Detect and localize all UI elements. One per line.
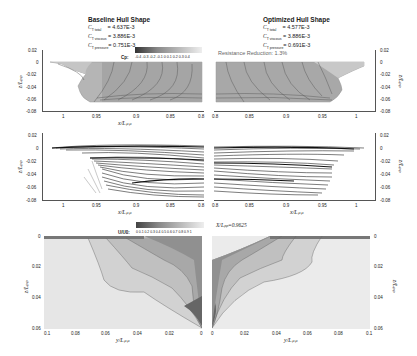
section-label: X/Lₚₚ=0.9625 xyxy=(216,222,247,229)
cp-plot-optimized xyxy=(214,50,376,112)
stream-z-tick-0.02-left: 0.02 xyxy=(28,133,37,138)
wake-z-tick-006-right: 0.06 xyxy=(374,326,383,331)
u-colorbar-label: U/U0: xyxy=(118,230,130,235)
stream-x-tick-right-085: 0.85 xyxy=(245,203,254,208)
cp-contour-optimized xyxy=(214,50,376,112)
wake-y-tick-left-002: 0.02 xyxy=(165,331,174,336)
cp-z-tick-m0.02-left: -0.02 xyxy=(26,72,36,77)
wake-contour-baseline xyxy=(44,236,202,329)
cp-x-tick-left-095: 0.95 xyxy=(92,114,101,119)
stream-x-tick-left-095: 0.95 xyxy=(92,203,101,208)
baseline-ct-total-value: = 4.637E-3 xyxy=(107,24,134,30)
cp-z-tick-m0.06-right: -0.06 xyxy=(380,97,390,102)
stream-x-tick-left-09: 0.9 xyxy=(133,203,139,208)
wake-z-tick-004-right: 0.04 xyxy=(374,295,383,300)
wake-y-tick-right-0: 0 xyxy=(211,331,214,336)
wake-z-tick-006-left: 0.06 xyxy=(32,326,41,331)
cp-zlabel-right: z/Lₚₚ xyxy=(397,75,404,88)
cp-z-tick-0.02-left: 0.02 xyxy=(28,48,37,53)
cp-zlabel-left: z/Lₚₚ xyxy=(17,75,24,88)
cp-z-tick-0-right: 0 xyxy=(380,60,383,65)
u-colorbar-ticks: 0 0.1 0.2 0.3 0.4 0.5 0.6 0.7 0.8 0.9 1 xyxy=(136,230,192,235)
cp-z-tick-0-left: 0 xyxy=(36,60,39,65)
u-colorbar: 0 0.1 0.2 0.3 0.4 0.5 0.6 0.7 0.8 0.9 1 xyxy=(136,222,204,236)
stream-xlabel-right: x/Lₚₚ xyxy=(290,209,304,216)
streamlines-optimized xyxy=(214,133,376,201)
optimized-ct-total-value: = 4.577E-3 xyxy=(282,24,309,30)
cp-x-tick-right-1: 1 xyxy=(355,114,358,119)
optimized-ct-pressure-value: = 0.691E-3 xyxy=(283,42,310,48)
stream-z-tick-m0.06-right: -0.06 xyxy=(380,185,390,190)
optimized-ct-viscous-value: = 3.886E-3 xyxy=(283,33,310,39)
cp-x-tick-left-08: 0.8 xyxy=(198,114,204,119)
wake-zlabel-left: z/Lₚₚ xyxy=(23,280,30,293)
stream-x-tick-right-09: 0.9 xyxy=(283,203,289,208)
stream-x-tick-right-095: 0.95 xyxy=(318,203,327,208)
stream-z-tick-m0.04-right: -0.04 xyxy=(380,172,390,177)
optimized-ct-total: CT total = 4.577E-3 xyxy=(263,24,330,33)
u-colorbar-gradient xyxy=(136,222,204,228)
baseline-ct-viscous: CT viscous = 3.886E-3 xyxy=(88,33,150,42)
cp-z-tick-m0.02-right: -0.02 xyxy=(380,72,390,77)
cp-z-tick-m0.06-left: -0.06 xyxy=(26,97,36,102)
cp-plot-baseline xyxy=(42,50,204,112)
optimized-header: Optimized Hull Shape CT total = 4.577E-3… xyxy=(263,16,330,51)
wake-y-tick-right-004: 0.04 xyxy=(272,331,281,336)
wake-plot-optimized xyxy=(212,236,370,329)
wake-plot-baseline xyxy=(44,236,202,329)
baseline-title: Baseline Hull Shape xyxy=(88,16,150,23)
stream-z-tick-m0.04-left: -0.04 xyxy=(26,172,36,177)
wake-y-tick-right-01: 0.1 xyxy=(366,331,372,336)
baseline-header: Baseline Hull Shape CT total = 4.637E-3 … xyxy=(88,16,150,51)
wake-z-tick-002-left: 0.02 xyxy=(32,264,41,269)
wake-contour-optimized xyxy=(212,236,370,329)
wake-ylabel-right: y/Lₚₚ xyxy=(284,337,298,344)
wake-y-tick-left-0: 0 xyxy=(200,331,203,336)
stream-zlabel-right: z/Lₚₚ xyxy=(397,160,404,173)
cp-z-tick-m0.04-left: -0.04 xyxy=(26,85,36,90)
wake-z-tick-0-right: 0 xyxy=(374,234,377,239)
wake-y-tick-left-004: 0.04 xyxy=(133,331,142,336)
cp-z-tick-0.02-right: 0.02 xyxy=(380,48,389,53)
baseline-ct-pressure-value: = 0.751E-3 xyxy=(108,42,135,48)
stream-x-tick-left-1: 1 xyxy=(62,203,65,208)
cp-x-tick-right-085: 0.85 xyxy=(245,114,254,119)
stream-x-tick-left-085: 0.85 xyxy=(166,203,175,208)
cp-x-tick-right-09: 0.9 xyxy=(283,114,289,119)
stream-z-tick-m0.02-left: -0.02 xyxy=(26,159,36,164)
wake-z-tick-004-left: 0.04 xyxy=(32,295,41,300)
streamlines-baseline xyxy=(42,133,204,201)
wake-z-tick-0-left: 0 xyxy=(38,234,41,239)
baseline-ct-viscous-value: = 3.886E-3 xyxy=(108,33,135,39)
wake-y-tick-left-006: 0.06 xyxy=(101,331,110,336)
wake-y-tick-right-006: 0.06 xyxy=(303,331,312,336)
wake-y-tick-left-008: 0.08 xyxy=(71,331,80,336)
stream-zlabel-left: z/Lₚₚ xyxy=(17,160,24,173)
stream-z-tick-0-right: 0 xyxy=(380,146,383,151)
stream-z-tick-0-left: 0 xyxy=(36,146,39,151)
wake-ylabel-left: y/Lₚₚ xyxy=(116,337,130,344)
stream-x-tick-left-08: 0.8 xyxy=(198,203,204,208)
cp-x-tick-left-1: 1 xyxy=(62,114,65,119)
wake-zlabel-right: z/Lₚₚ xyxy=(391,280,398,293)
cp-z-tick-m0.08-right: -0.08 xyxy=(380,109,390,114)
stream-z-tick-0.02-right: 0.02 xyxy=(380,133,389,138)
cp-z-tick-m0.04-right: -0.04 xyxy=(380,85,390,90)
stream-z-tick-m0.06-left: -0.06 xyxy=(26,185,36,190)
optimized-title: Optimized Hull Shape xyxy=(263,16,330,23)
cp-x-tick-right-095: 0.95 xyxy=(318,114,327,119)
wake-y-tick-left-01: 0.1 xyxy=(44,331,50,336)
baseline-ct-total: CT total = 4.637E-3 xyxy=(88,24,150,33)
cp-x-tick-left-09: 0.9 xyxy=(133,114,139,119)
cp-z-tick-m0.08-left: -0.08 xyxy=(26,109,36,114)
cp-x-tick-left-085: 0.85 xyxy=(166,114,175,119)
wake-y-tick-right-002: 0.02 xyxy=(240,331,249,336)
stream-x-tick-right-08: 0.8 xyxy=(212,203,218,208)
stream-z-tick-m0.08-right: -0.08 xyxy=(380,198,390,203)
stream-xlabel-left: x/Lₚₚ xyxy=(118,209,132,216)
cp-contour-baseline xyxy=(42,50,204,112)
stream-z-tick-m0.08-left: -0.08 xyxy=(26,198,36,203)
cp-x-tick-right-08: 0.8 xyxy=(212,114,218,119)
stream-x-tick-right-1: 1 xyxy=(355,203,358,208)
streamline-plot-baseline xyxy=(42,133,204,201)
